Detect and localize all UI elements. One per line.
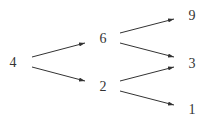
- edge-6-to-3: [120, 43, 174, 57]
- node-2: 2: [100, 79, 107, 94]
- edge-2-to-1: [120, 91, 174, 105]
- node-1: 1: [189, 102, 196, 117]
- node-9: 9: [189, 8, 196, 23]
- node-3: 3: [189, 56, 196, 71]
- edge-4-to-6: [32, 43, 85, 57]
- edge-4-to-2: [32, 67, 85, 81]
- tree-diagram: 4 6 2 9 3 1: [0, 0, 202, 119]
- nodes: 4 6 2 9 3 1: [10, 8, 196, 117]
- edge-6-to-9: [120, 19, 174, 33]
- edge-2-to-3: [120, 67, 174, 81]
- node-6: 6: [100, 31, 107, 46]
- node-4: 4: [10, 55, 17, 70]
